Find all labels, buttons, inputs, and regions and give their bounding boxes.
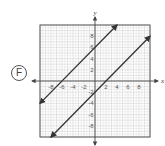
x-tick-label: 4 [115,84,119,90]
x-tick-label: 6 [126,84,130,90]
coordinate-plane: xy-8-6-4-22468-8-6-4-22468 [0,0,165,146]
y-tick-label: -8 [88,123,94,129]
x-tick-label: 8 [137,84,141,90]
x-tick-label: -4 [70,84,76,90]
x-tick-label: 2 [104,84,108,90]
y-axis-label: y [93,9,98,17]
x-tick-label: -6 [59,84,65,90]
x-axis-label: x [160,77,165,85]
y-tick-label: -4 [88,100,94,106]
x-tick-label: -2 [81,84,87,90]
y-tick-label: -6 [88,112,94,118]
